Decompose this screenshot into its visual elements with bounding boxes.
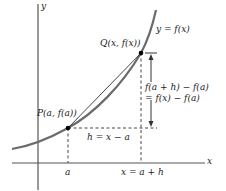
point-p [66, 126, 71, 131]
x-tick-x-label: x = a + h [121, 168, 164, 177]
secant-line [68, 53, 141, 128]
x-axis-label: x [207, 157, 212, 166]
curve-label: y = f(x) [156, 25, 190, 34]
point-q-label: Q(x, f(x)) [100, 39, 141, 48]
vertical-span-label-2: = f(x) − f(a) [145, 94, 200, 103]
y-axis-label: y [41, 2, 46, 11]
point-q [139, 51, 144, 56]
x-tick-a-label: a [65, 168, 70, 177]
vertical-span-label-1: f(a + h) − f(a) [145, 83, 209, 92]
point-p-label: P(a, f(a)) [37, 109, 77, 118]
horizontal-span-label: h = x − a [87, 133, 130, 142]
arrow-down-icon [149, 121, 154, 127]
arrow-up-icon [149, 54, 154, 60]
